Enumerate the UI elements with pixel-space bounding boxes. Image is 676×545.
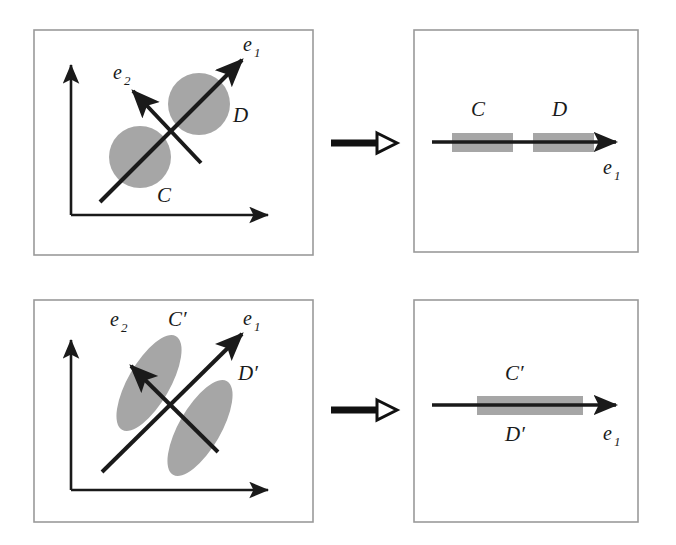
e2-subscript: 2	[121, 320, 128, 335]
cluster-blob-c	[109, 126, 171, 188]
e2-label: e	[110, 308, 119, 330]
panel-top-left: e 1 e 2 C D	[34, 30, 313, 255]
projection-label-d-prime: D′	[504, 422, 525, 446]
e1-subscript: 1	[254, 45, 261, 60]
cluster-label-c: C	[157, 183, 172, 207]
e1-subscript: 1	[614, 168, 621, 183]
diagram-canvas: e 1 e 2 C D C D e	[0, 0, 676, 545]
projection-label-c-prime: C′	[505, 361, 524, 385]
e1-label: e	[603, 156, 612, 178]
e2-subscript: 2	[124, 73, 131, 88]
cluster-label-d-prime: D′	[237, 361, 258, 385]
projection-arrow-top-head	[377, 133, 397, 153]
figure-root: e 1 e 2 C D C D e	[0, 0, 676, 545]
projection-arrow-top	[331, 133, 397, 153]
panel-top-right: C D e 1	[414, 30, 638, 252]
cluster-label-c-prime: C′	[168, 307, 187, 331]
panel-bottom-right: C′ D′ e 1	[414, 300, 638, 522]
panel-frame-top-left	[34, 30, 313, 255]
e1-subscript: 1	[254, 319, 261, 334]
panel-bottom-left: e 1 e 2 C′ D′	[34, 300, 313, 522]
cluster-label-d: D	[232, 103, 248, 127]
e1-subscript: 1	[614, 434, 621, 449]
projection-label-c: C	[471, 97, 486, 121]
projection-label-d: D	[551, 97, 567, 121]
projection-arrow-bottom-head	[377, 400, 397, 420]
projection-arrow-bottom	[331, 400, 397, 420]
e1-label: e	[243, 307, 252, 329]
e1-label: e	[243, 33, 252, 55]
e2-label: e	[113, 61, 122, 83]
e1-label: e	[603, 422, 612, 444]
